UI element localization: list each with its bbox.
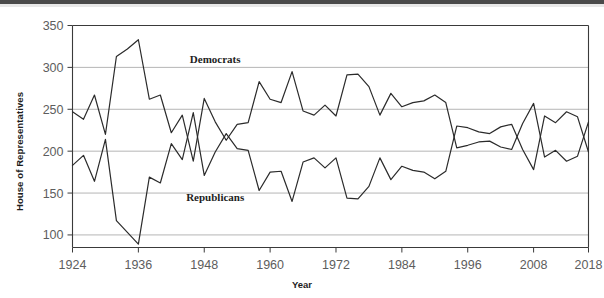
line-chart-svg: 100150200250300350 192419361948196019721… [0,7,604,298]
plot-frame-group [73,26,589,248]
data-series-group [73,40,589,244]
x-tick-label: 1936 [124,258,152,272]
series-labels-group: DemocratsRepublicans [186,53,245,203]
y-tick-label: 350 [43,19,64,33]
y-tick-label: 150 [43,187,64,201]
x-tick-label: 2018 [575,258,603,272]
y-tick-label: 100 [43,228,64,242]
x-tick-label: 1996 [454,258,482,272]
series-label-democrats: Democrats [190,53,241,65]
series-line-republicans [73,112,589,244]
chart-screenshot: House of Representatives Year 1001502002… [0,0,604,298]
x-tick-label: 1948 [190,258,218,272]
x-tick-label: 1924 [59,258,87,272]
x-tick-label: 1984 [388,258,416,272]
x-axis-ticks-group: 192419361948196019721984199620082018 [59,248,603,272]
x-tick-label: 1972 [322,258,350,272]
gridlines-group [73,26,589,235]
chart-container: House of Representatives Year 1001502002… [0,7,604,298]
x-tick-label: 2008 [520,258,548,272]
series-line-democrats [73,40,589,161]
x-tick-label: 1960 [256,258,284,272]
y-tick-label: 250 [43,103,64,117]
series-label-republicans: Republicans [186,191,245,203]
y-tick-label: 300 [43,61,64,75]
y-tick-label: 200 [43,145,64,159]
y-axis-ticks-group: 100150200250300350 [43,19,73,242]
